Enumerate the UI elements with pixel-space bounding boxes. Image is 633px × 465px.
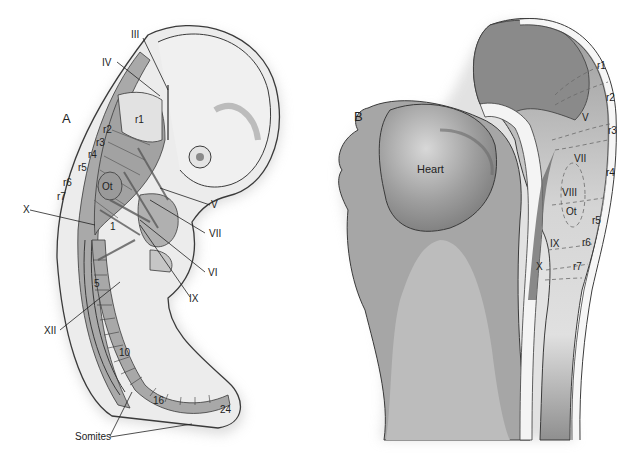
somite-number-1: 1 — [110, 222, 116, 232]
rhombomere-label-r6: r6 — [63, 178, 72, 188]
region-label-vii: VII — [574, 154, 586, 164]
rhombomere-label-r5: r5 — [592, 216, 601, 226]
rhombomere-label-r3: r3 — [96, 138, 105, 148]
rhombomere-label-r7: r7 — [57, 192, 66, 202]
rhombomere-label-r2: r2 — [606, 93, 615, 103]
nerve-label-v: V — [211, 200, 218, 210]
rhombomere-label-r1: r1 — [135, 115, 144, 125]
nerve-label-vi: VI — [208, 268, 217, 278]
rhombomere-label-r7: r7 — [573, 262, 582, 272]
rhombomere-label-r4: r4 — [88, 150, 97, 160]
region-label-v: V — [582, 113, 589, 123]
pharyngeal-arch — [138, 194, 178, 247]
rhombomere-label-r1: r1 — [597, 61, 606, 71]
panel-b-embryo-sagittal: B Heart r1 r2 r3 r4 r5 r6 r7 V VII VIII … — [320, 0, 633, 465]
embryo-sagittal-illustration — [320, 0, 633, 465]
rhombomere-label-r5: r5 — [78, 163, 87, 173]
somites-label: Somites — [75, 432, 111, 442]
nerve-label-ix: IX — [189, 294, 198, 304]
nerve-label-xii: XII — [44, 326, 56, 336]
rhombomere-label-r6: r6 — [582, 238, 591, 248]
heart-label: Heart — [417, 164, 444, 175]
panel-b-label: B — [354, 110, 363, 123]
somite-number-24: 24 — [220, 405, 231, 415]
panel-a-label: A — [62, 112, 71, 125]
nerve-label-iv: IV — [102, 58, 111, 68]
otic-label: Ot — [102, 182, 113, 192]
somite-number-5: 5 — [94, 279, 100, 289]
eye-lens — [196, 153, 204, 161]
nerve-label-vii: VII — [209, 229, 221, 239]
rhombomere-label-r4: r4 — [606, 168, 615, 178]
panel-a-embryo-lateral: A r1 r2 r3 r4 r5 r6 r7 Ot III IV V VI VI… — [0, 0, 320, 465]
nerve-label-iii: III — [131, 30, 139, 40]
region-label-x: X — [536, 262, 543, 272]
region-label-viii: VIII — [562, 188, 577, 198]
region-label-ix: IX — [550, 239, 559, 249]
somite-number-10: 10 — [119, 348, 130, 358]
rhombomere-label-r2: r2 — [103, 125, 112, 135]
nerve-label-x: X — [23, 205, 30, 215]
somite-number-16: 16 — [153, 396, 164, 406]
rhombomere-label-r3: r3 — [608, 126, 617, 136]
otic-label: Ot — [566, 207, 577, 217]
